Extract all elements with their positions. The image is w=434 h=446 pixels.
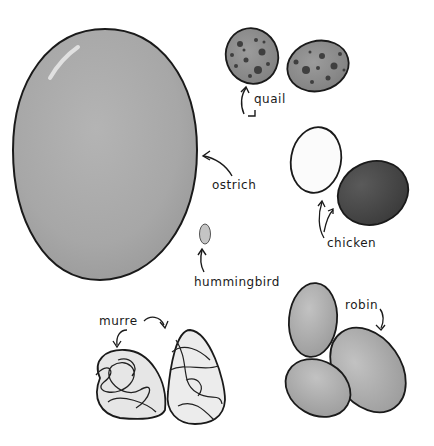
hummingbird-label: hummingbird — [194, 275, 280, 289]
quail-egg-2 — [282, 34, 355, 98]
chicken-arrows-icon — [318, 201, 333, 238]
ostrich-label: ostrich — [212, 178, 256, 192]
chicken-label: chicken — [327, 236, 376, 250]
robin-label: robin — [345, 298, 378, 312]
ostrich-egg — [13, 29, 197, 280]
egg-illustration — [0, 0, 434, 446]
quail-arrow-icon — [241, 87, 255, 116]
chicken-egg-white — [286, 123, 347, 197]
quail-label: quail — [254, 92, 286, 106]
murre-label: murre — [99, 314, 138, 328]
murre-egg-left — [96, 350, 165, 419]
quail-egg-1 — [218, 21, 286, 91]
ostrich-arrow-icon — [203, 151, 232, 176]
robin-arrow-icon — [376, 309, 385, 330]
hummingbird-egg — [200, 224, 211, 244]
hummingbird-arrow-icon — [198, 249, 206, 272]
murre-egg-right — [168, 330, 225, 424]
